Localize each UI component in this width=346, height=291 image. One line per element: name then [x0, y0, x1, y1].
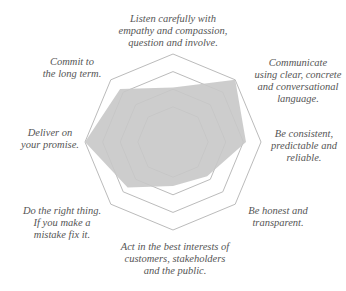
- axis-label-honest: Be honest and transparent.: [238, 205, 318, 229]
- axis-label-consistent: Be consistent, predictable and reliable.: [262, 128, 346, 164]
- axis-label-communicate: Communicate using clear, concrete and co…: [250, 57, 346, 105]
- axis-label-commit: Commit to the long term.: [36, 56, 108, 80]
- axis-label-best-interests: Act in the best interests of customers, …: [110, 241, 240, 277]
- axis-label-listen: Listen carefully with empathy and compas…: [118, 13, 228, 49]
- axis-label-deliver: Deliver on your promise.: [14, 127, 86, 151]
- axis-label-do-right-thing: Do the right thing. If you make a mistak…: [12, 205, 112, 241]
- radar-data-area: [85, 80, 246, 188]
